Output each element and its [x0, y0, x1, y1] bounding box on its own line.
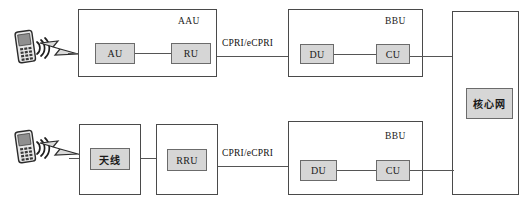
- connector-au-ru: [135, 53, 171, 54]
- connector-bbu-core-top: [410, 56, 454, 57]
- bbu-title-bottom: BBU: [385, 131, 406, 141]
- connector-antenna-rru: [141, 158, 156, 159]
- unit-du-top: DU: [300, 44, 334, 64]
- connector-ue-antenna: [69, 158, 79, 159]
- core-network-label: 核心网: [473, 96, 506, 111]
- connector-du-cu-top: [334, 54, 376, 55]
- connector-rru-bbu-bottom: [218, 166, 288, 167]
- network-architecture-diagram: AAU AU RU CPRI/eCPRI BBU DU CU 核心网: [0, 0, 527, 200]
- unit-ru: RU: [171, 43, 211, 64]
- unit-core-network: 核心网: [466, 88, 513, 119]
- unit-au: AU: [95, 43, 135, 64]
- unit-cu-bottom: CU: [376, 160, 410, 181]
- connector-aau-bbu-top: [217, 56, 288, 57]
- bbu-title-top: BBU: [385, 16, 406, 26]
- unit-rru: RRU: [167, 149, 207, 171]
- antenna-label: 天线: [99, 152, 121, 167]
- connector-du-cu-bottom: [337, 170, 376, 171]
- link-label-cpri-bottom: CPRI/eCPRI: [222, 148, 273, 158]
- unit-du-bottom: DU: [300, 160, 337, 181]
- unit-cu-top: CU: [376, 44, 410, 64]
- unit-antenna: 天线: [90, 148, 130, 170]
- aau-title: AAU: [178, 16, 200, 26]
- connector-ue-aau: [68, 53, 78, 54]
- link-label-cpri-top: CPRI/eCPRI: [222, 38, 273, 48]
- connector-bbu-core-bottom: [410, 170, 454, 171]
